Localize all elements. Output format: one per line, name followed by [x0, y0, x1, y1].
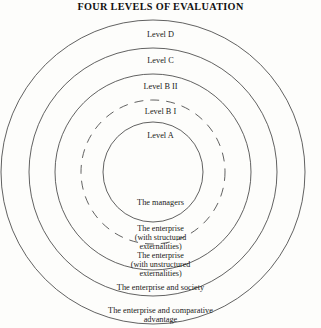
label-scope-managers: The managers — [0, 198, 321, 207]
label-scope-enterprise-unstructured: The enterprise (with unstructured extern… — [0, 251, 321, 278]
concentric-rings-graphic — [0, 0, 321, 328]
label-level-d: Level D — [0, 30, 321, 39]
label-scope-comparative-advantage: The enterprise and comparative advantage — [0, 306, 321, 325]
label-level-c: Level C — [0, 56, 321, 65]
label-scope-enterprise-structured: The enterprise (with structured external… — [0, 224, 321, 251]
ring-level-d-circle — [1, 20, 305, 324]
label-level-a: Level A — [0, 131, 321, 140]
label-scope-enterprise-society: The enterprise and society — [0, 283, 321, 292]
evaluation-levels-diagram: FOUR LEVELS OF EVALUATION Level D Level … — [0, 0, 321, 328]
label-level-b-i: Level B I — [0, 107, 321, 116]
label-level-b-ii: Level B II — [0, 82, 321, 91]
